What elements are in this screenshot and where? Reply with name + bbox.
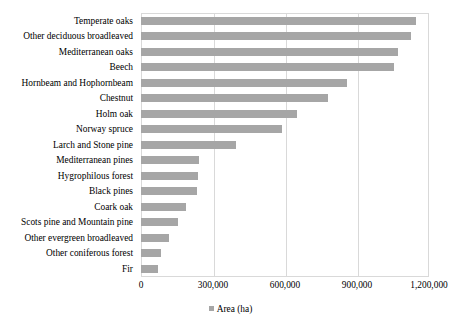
category-label: Chestnut bbox=[100, 93, 133, 103]
bar-row bbox=[141, 153, 429, 169]
bar bbox=[141, 172, 198, 180]
category-label-row: Scots pine and Mountain pine bbox=[0, 215, 137, 231]
category-label-row: Black pines bbox=[0, 184, 137, 200]
bar bbox=[141, 17, 416, 25]
bar-row bbox=[141, 13, 429, 29]
bar bbox=[141, 265, 158, 273]
bar bbox=[141, 218, 178, 226]
category-label-row: Mediterranean oaks bbox=[0, 44, 137, 60]
bar bbox=[141, 234, 169, 242]
bar-row bbox=[141, 215, 429, 231]
bar-row bbox=[141, 230, 429, 246]
bar-row bbox=[141, 184, 429, 200]
bar bbox=[141, 110, 297, 118]
x-axis-tick-label: 600,000 bbox=[270, 279, 300, 291]
category-label: Coark oak bbox=[94, 202, 133, 212]
bar-row bbox=[141, 75, 429, 91]
legend-label: Area (ha) bbox=[217, 304, 253, 314]
category-label-row: Chestnut bbox=[0, 91, 137, 107]
category-label: Larch and Stone pine bbox=[53, 140, 133, 150]
x-axis-tick-label: 1,200,000 bbox=[410, 279, 448, 291]
bar-row bbox=[141, 91, 429, 107]
bar-row bbox=[141, 246, 429, 262]
category-label: Mediterranean oaks bbox=[59, 47, 133, 57]
category-label-row: Other deciduous broadleaved bbox=[0, 29, 137, 45]
bars-container bbox=[141, 13, 429, 277]
bar bbox=[141, 32, 411, 40]
category-label-row: Hornbeam and Hophornbeam bbox=[0, 75, 137, 91]
bar bbox=[141, 203, 186, 211]
bar bbox=[141, 48, 398, 56]
category-axis-labels: Temperate oaksOther deciduous broadleave… bbox=[0, 13, 137, 277]
category-label: Other coniferous forest bbox=[46, 248, 133, 258]
category-label: Other evergreen broadleaved bbox=[24, 233, 133, 243]
category-label-row: Fir bbox=[0, 261, 137, 277]
category-label-row: Other coniferous forest bbox=[0, 246, 137, 262]
bar-row bbox=[141, 122, 429, 138]
bar-row bbox=[141, 44, 429, 60]
bar-row bbox=[141, 60, 429, 76]
category-label: Temperate oaks bbox=[74, 16, 133, 26]
category-label-row: Beech bbox=[0, 60, 137, 76]
bar bbox=[141, 249, 161, 257]
bar bbox=[141, 94, 328, 102]
bar bbox=[141, 63, 394, 71]
category-label: Hornbeam and Hophornbeam bbox=[22, 78, 133, 88]
category-label: Mediterranean pines bbox=[56, 155, 133, 165]
category-label: Scots pine and Mountain pine bbox=[21, 217, 133, 227]
bar bbox=[141, 125, 282, 133]
category-label-row: Coark oak bbox=[0, 199, 137, 215]
category-label: Beech bbox=[110, 62, 133, 72]
x-axis-tick-label: 0 bbox=[139, 279, 144, 291]
bar-row bbox=[141, 106, 429, 122]
category-label: Holm oak bbox=[96, 109, 133, 119]
bar-row bbox=[141, 261, 429, 277]
bar bbox=[141, 187, 197, 195]
bar-chart: Temperate oaksOther deciduous broadleave… bbox=[0, 0, 461, 324]
chart-legend: Area (ha) bbox=[0, 303, 461, 314]
category-label-row: Hygrophilous forest bbox=[0, 168, 137, 184]
category-label: Norway spruce bbox=[76, 124, 133, 134]
x-axis-tick-label: 300,000 bbox=[198, 279, 228, 291]
category-label-row: Larch and Stone pine bbox=[0, 137, 137, 153]
category-label: Black pines bbox=[89, 186, 133, 196]
category-label: Hygrophilous forest bbox=[58, 171, 133, 181]
category-label-row: Mediterranean pines bbox=[0, 153, 137, 169]
bar-row bbox=[141, 29, 429, 45]
category-label: Fir bbox=[122, 264, 133, 274]
category-label-row: Other evergreen broadleaved bbox=[0, 230, 137, 246]
legend-entry: Area (ha) bbox=[209, 304, 253, 314]
category-label: Other deciduous broadleaved bbox=[23, 31, 133, 41]
category-label-row: Norway spruce bbox=[0, 122, 137, 138]
bar-row bbox=[141, 199, 429, 215]
x-axis-tick-labels: 0300,000600,000900,0001,200,000 bbox=[0, 279, 461, 293]
bar bbox=[141, 79, 347, 87]
bar bbox=[141, 141, 236, 149]
bar-row bbox=[141, 137, 429, 153]
bar bbox=[141, 156, 199, 164]
category-label-row: Holm oak bbox=[0, 106, 137, 122]
x-axis-tick-label: 900,000 bbox=[342, 279, 372, 291]
category-label-row: Temperate oaks bbox=[0, 13, 137, 29]
legend-swatch-icon bbox=[209, 306, 214, 311]
bar-row bbox=[141, 168, 429, 184]
